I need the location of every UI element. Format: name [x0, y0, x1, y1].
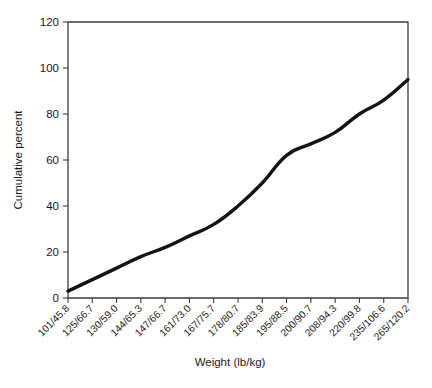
- y-axis-tick-label: 120: [40, 16, 59, 28]
- x-axis-tick-labels: 101/45.8125/66.7130/59.0144/65.3147/66.7…: [36, 302, 412, 342]
- chart-canvas: 020406080100120 101/45.8125/66.7130/59.0…: [0, 0, 432, 388]
- data-series-cumulative: [68, 80, 408, 292]
- cumulative-percent-chart: 020406080100120 101/45.8125/66.7130/59.0…: [0, 0, 432, 388]
- x-axis-ticks: [68, 298, 408, 303]
- y-axis-tick-label: 100: [40, 62, 59, 74]
- plot-frame: [68, 22, 408, 298]
- y-axis-tick-label: 40: [46, 200, 59, 212]
- y-axis-title: Cumulative percent: [12, 110, 24, 210]
- y-axis-tick-labels: 020406080100120: [40, 16, 59, 304]
- y-axis-tick-label: 0: [53, 292, 59, 304]
- y-axis-ticks: [63, 22, 68, 298]
- y-axis-tick-label: 60: [46, 154, 59, 166]
- y-axis-tick-label: 20: [46, 246, 59, 258]
- y-axis-tick-label: 80: [46, 108, 59, 120]
- x-axis-title: Weight (lb/kg): [195, 356, 266, 368]
